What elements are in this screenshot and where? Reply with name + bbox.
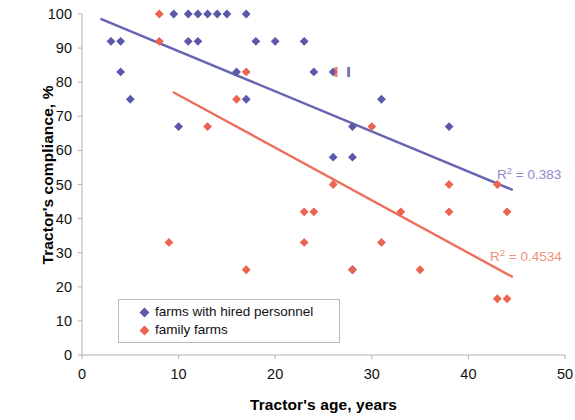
scatter-chart: Tractor's compliance, % Tractor's age, y…: [0, 0, 575, 420]
y-tick-80: 80: [36, 75, 72, 90]
trend-lines: [101, 19, 512, 276]
legend-label-family: family farms: [155, 323, 228, 337]
data-point-markers: [107, 10, 512, 304]
r2-red-value: = 0.4534: [505, 249, 562, 264]
y-tick-30: 30: [36, 246, 72, 261]
r-squared-label-hired: R2 = 0.383: [497, 168, 561, 182]
legend-label-hired: farms with hired personnel: [155, 305, 313, 319]
y-tick-10: 10: [36, 314, 72, 329]
plot-area: [0, 0, 575, 420]
y-tick-0: 0: [36, 348, 72, 363]
x-tick-30: 30: [352, 367, 392, 382]
r2-red-prefix: R: [490, 249, 500, 264]
r2-blue-value: = 0.383: [512, 167, 561, 182]
legend-marker-family-icon: [140, 325, 150, 335]
x-tick-0: 0: [62, 367, 102, 382]
x-tick-20: 20: [255, 367, 295, 382]
y-tick-70: 70: [36, 109, 72, 124]
plot-annotations: [335, 67, 350, 77]
r-squared-label-family: R2 = 0.4534: [490, 250, 562, 264]
x-tick-10: 10: [159, 367, 199, 382]
y-tick-40: 40: [36, 212, 72, 227]
y-tick-50: 50: [36, 178, 72, 193]
y-tick-90: 90: [36, 41, 72, 56]
y-tick-20: 20: [36, 280, 72, 295]
r2-blue-prefix: R: [497, 167, 507, 182]
legend-item-family-farms: family farms: [141, 321, 228, 339]
legend: farms with hired personnel family farms: [118, 299, 340, 343]
x-tick-40: 40: [448, 367, 488, 382]
x-axis-title: Tractor's age, years: [82, 396, 565, 414]
legend-marker-hired-icon: [140, 307, 150, 317]
y-tick-100: 100: [36, 7, 72, 22]
legend-item-hired-personnel: farms with hired personnel: [141, 303, 313, 321]
x-tick-50: 50: [545, 367, 575, 382]
y-tick-60: 60: [36, 143, 72, 158]
